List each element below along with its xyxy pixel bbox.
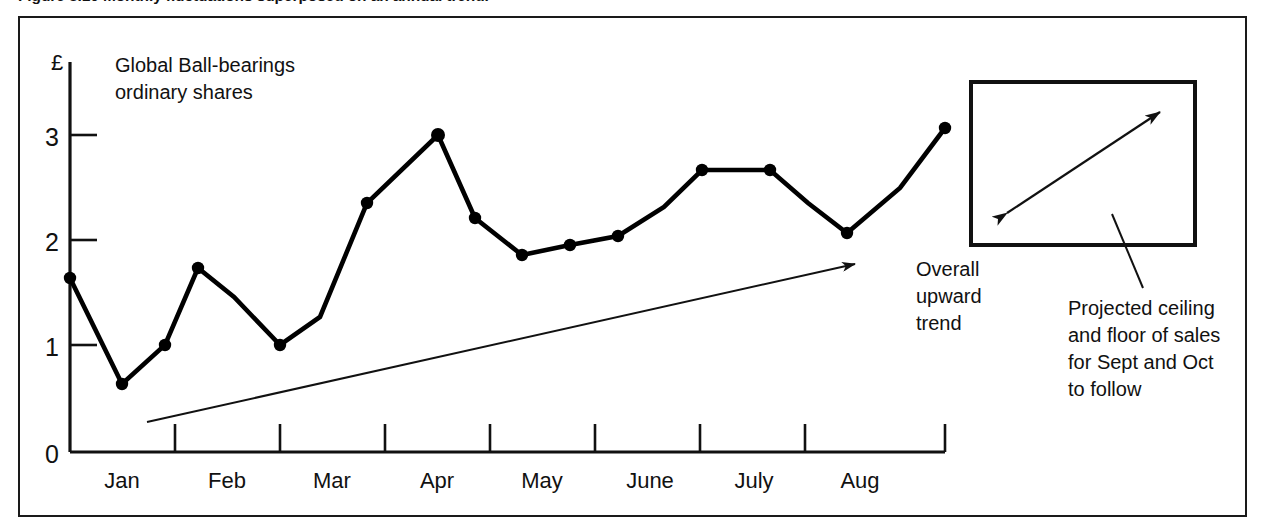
series-label-line2: ordinary shares bbox=[115, 81, 253, 103]
x-label-may: May bbox=[521, 468, 563, 493]
trend-arrow bbox=[147, 264, 855, 422]
projection-box bbox=[971, 82, 1195, 245]
figure-page: Figure 3.10 Monthly fluctuations superpo… bbox=[0, 0, 1267, 531]
x-label-june: June bbox=[626, 468, 674, 493]
trend-annotation-line1: Overall bbox=[916, 258, 979, 280]
data-series-line bbox=[70, 128, 945, 384]
y-axis-currency-label: £ bbox=[51, 50, 63, 75]
x-label-mar: Mar bbox=[313, 468, 351, 493]
data-point bbox=[361, 197, 373, 209]
projection-annotation-line1: Projected ceiling bbox=[1068, 297, 1215, 319]
data-point bbox=[696, 164, 708, 176]
y-tick-label-1: 1 bbox=[45, 333, 59, 361]
y-axis-labels: £ 3 2 1 0 bbox=[45, 50, 63, 468]
projection-annotation-line3: for Sept and Oct bbox=[1068, 351, 1214, 373]
projection-annotation: Projected ceiling and floor of sales for… bbox=[1068, 297, 1220, 400]
data-point bbox=[274, 339, 286, 351]
x-label-feb: Feb bbox=[208, 468, 246, 493]
data-point bbox=[192, 262, 204, 274]
data-point-markers bbox=[64, 122, 951, 390]
data-point bbox=[564, 239, 576, 251]
x-label-jan: Jan bbox=[104, 468, 139, 493]
x-label-july: July bbox=[734, 468, 773, 493]
data-point bbox=[159, 339, 171, 351]
data-point bbox=[516, 249, 528, 261]
trend-annotation-line2: upward bbox=[916, 285, 982, 307]
data-point bbox=[612, 230, 624, 242]
projection-annotation-line2: and floor of sales bbox=[1068, 324, 1220, 346]
data-point bbox=[841, 227, 853, 239]
data-point bbox=[431, 128, 445, 142]
trend-annotation: Overall upward trend bbox=[916, 258, 982, 334]
data-point bbox=[116, 378, 128, 390]
data-point bbox=[764, 164, 776, 176]
series-label: Global Ball-bearings ordinary shares bbox=[115, 54, 295, 103]
data-point bbox=[469, 212, 481, 224]
x-label-apr: Apr bbox=[420, 468, 454, 493]
y-tick-label-2: 2 bbox=[45, 228, 59, 256]
x-axis-labels: Jan Feb Mar Apr May June July Aug bbox=[104, 468, 879, 493]
y-tick-label-3: 3 bbox=[45, 123, 59, 151]
data-point bbox=[939, 122, 951, 134]
series-label-line1: Global Ball-bearings bbox=[115, 54, 295, 76]
axis-group bbox=[70, 62, 945, 452]
projection-annotation-line4: to follow bbox=[1068, 378, 1142, 400]
y-tick-label-0: 0 bbox=[45, 440, 59, 468]
x-label-aug: Aug bbox=[840, 468, 879, 493]
data-point bbox=[64, 272, 76, 284]
line-chart: £ 3 2 1 0 Jan Feb Mar Apr May June July … bbox=[0, 0, 1267, 531]
trend-annotation-line3: trend bbox=[916, 312, 962, 334]
